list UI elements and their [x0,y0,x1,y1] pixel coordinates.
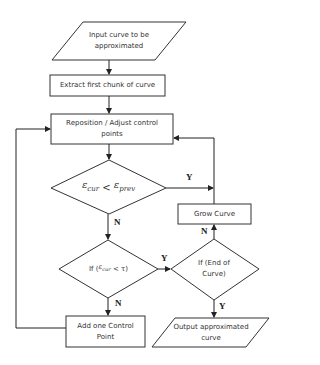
input-label: Input curve to be approximated [68,22,170,60]
add-label: Add one Control Point [70,316,141,347]
eps-prev: εprev [114,179,135,195]
no-label-end: N [201,226,208,236]
extract-label: Extract first chunk of curve [50,75,165,96]
grow-label: Grow Curve [178,204,251,224]
eps-cur: εcur [82,179,99,195]
yes-label-end: Y [219,301,226,311]
reposition-label: Reposition / Adjust control points [66,114,158,144]
yes-label-tau: Y [161,253,168,263]
yes-label-error: Y [186,172,193,182]
decision-end-label: If (End of Curve) [190,250,238,288]
lt-operator: < [99,182,114,193]
output-label: Output approximated curve [168,318,254,347]
no-label-error: N [114,217,121,227]
no-label-tau: N [115,298,122,308]
decision-tau-label: If ( εcur < τ) [59,240,158,298]
decision-error-label: εcur < εprev [51,160,166,214]
